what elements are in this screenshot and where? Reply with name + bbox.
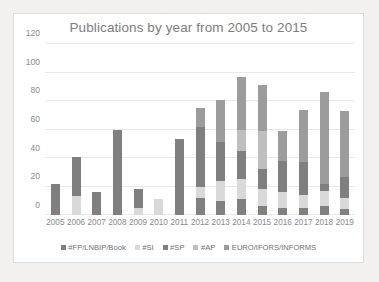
bar-segment (237, 77, 246, 130)
chart-title: Publications by year from 2005 to 2015 (14, 20, 363, 35)
x-axis-tick-label: 2014 (231, 218, 252, 232)
bar-segment (216, 181, 225, 201)
bar-segment (134, 208, 143, 215)
plot-area: 020406080100120 (45, 44, 355, 215)
legend-item[interactable]: #SI (135, 243, 154, 252)
bar-segment (196, 127, 205, 187)
bar-segment (258, 85, 267, 131)
bar-column (190, 44, 211, 215)
bar-segment (258, 189, 267, 206)
bar-segment (258, 169, 267, 189)
stacked-bar[interactable] (72, 157, 81, 215)
chart-legend: #FP/LNBIP/Book#SI#SP#APEURO/IFORS/INFORM… (14, 241, 363, 254)
y-axis-tick-label: 80 (31, 85, 40, 95)
bar-segment (72, 196, 81, 215)
bar-segment (299, 208, 308, 215)
bar-segment (320, 184, 329, 191)
bar-column (148, 44, 169, 215)
legend-item[interactable]: #SP (163, 243, 185, 252)
bar-segment (175, 139, 184, 215)
y-axis-tick-label: 20 (31, 171, 40, 181)
legend-swatch-icon (61, 245, 66, 250)
bar-segment (340, 177, 349, 198)
x-axis-tick-label: 2013 (210, 218, 231, 232)
x-axis-tick-label: 2017 (293, 218, 314, 232)
bar-segment (237, 151, 246, 179)
chart-frame: Publications by year from 2005 to 2015 0… (13, 13, 364, 263)
y-axis-tick-label: 120 (26, 28, 40, 38)
stacked-bar[interactable] (216, 100, 225, 215)
legend-label: #SI (142, 243, 153, 252)
bar-segment (72, 157, 81, 197)
x-axis-tick-label: 2019 (334, 218, 355, 232)
bar-segment (216, 201, 225, 215)
legend-label: #AP (201, 243, 215, 252)
y-axis-tick-label: 40 (31, 143, 40, 153)
stacked-bar[interactable] (237, 77, 246, 215)
bar-column (252, 44, 273, 215)
bar-segment (134, 189, 143, 208)
bar-segment (237, 179, 246, 199)
stacked-bar[interactable] (113, 130, 122, 216)
x-axis-tick-label: 2015 (252, 218, 273, 232)
stacked-bar[interactable] (278, 131, 287, 215)
bar-column (293, 44, 314, 215)
bar-column (107, 44, 128, 215)
bar-series-group (45, 44, 355, 215)
bar-segment (216, 100, 225, 143)
x-axis-tick-label: 2012 (190, 218, 211, 232)
stacked-bar[interactable] (320, 92, 329, 215)
bar-segment (299, 110, 308, 163)
x-axis-tick-label: 2006 (66, 218, 87, 232)
bar-segment (154, 199, 163, 215)
stacked-bar[interactable] (51, 184, 60, 215)
bar-segment (278, 208, 287, 215)
stacked-bar[interactable] (196, 108, 205, 215)
bar-column (334, 44, 355, 215)
x-axis-tick-label: 2011 (169, 218, 190, 232)
legend-label: #FP/LNBIP/Book (68, 243, 125, 252)
x-axis-tick-label: 2016 (272, 218, 293, 232)
stacked-bar[interactable] (299, 110, 308, 215)
x-axis-tick-label: 2010 (148, 218, 169, 232)
bar-segment (237, 130, 246, 151)
legend-item[interactable]: EURO/IFORS/INFORMS (224, 243, 316, 252)
x-axis-tick-label: 2008 (107, 218, 128, 232)
legend-swatch-icon (163, 245, 168, 250)
bar-segment (320, 92, 329, 183)
legend-item[interactable]: #AP (193, 243, 215, 252)
stacked-bar[interactable] (258, 85, 267, 215)
bar-segment (258, 206, 267, 215)
bar-column (210, 44, 231, 215)
y-axis-tick-label: 100 (26, 57, 40, 67)
bar-column (272, 44, 293, 215)
bar-segment (299, 162, 308, 195)
bar-segment (113, 130, 122, 216)
bar-segment (340, 209, 349, 215)
stacked-bar[interactable] (340, 111, 349, 215)
stacked-bar[interactable] (134, 189, 143, 215)
y-axis-tick-label: 0 (35, 200, 40, 210)
bar-segment (278, 131, 287, 161)
stacked-bar[interactable] (154, 199, 163, 215)
bar-segment (278, 161, 287, 192)
x-axis-tick-label: 2005 (45, 218, 66, 232)
chart-page: Publications by year from 2005 to 2015 0… (0, 0, 379, 282)
bar-segment (196, 187, 205, 198)
legend-item[interactable]: #FP/LNBIP/Book (61, 243, 126, 252)
bar-segment (237, 199, 246, 215)
stacked-bar[interactable] (175, 139, 184, 215)
bar-column (169, 44, 190, 215)
bar-segment (320, 206, 329, 215)
bar-column (128, 44, 149, 215)
bar-segment (340, 111, 349, 177)
x-axis-labels: 2005200620072008200920102011201220132014… (45, 218, 355, 232)
bar-column (314, 44, 335, 215)
x-axis-tick-label: 2018 (314, 218, 335, 232)
stacked-bar[interactable] (92, 192, 101, 215)
bar-segment (196, 108, 205, 127)
bar-segment (51, 184, 60, 215)
x-axis-tick-label: 2009 (128, 218, 149, 232)
bar-segment (92, 192, 101, 215)
legend-label: #SP (170, 243, 184, 252)
